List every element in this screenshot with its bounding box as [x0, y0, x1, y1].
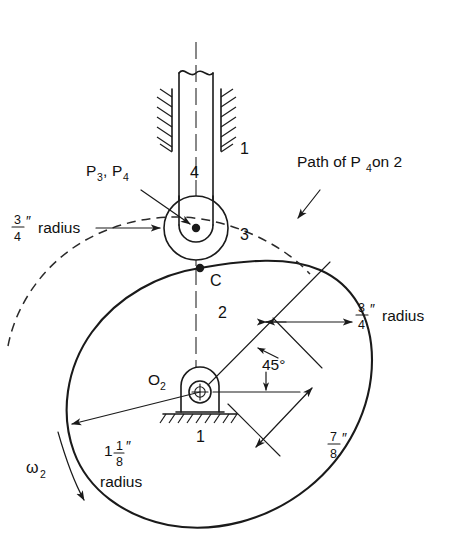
- label-p4-letter: P: [112, 162, 122, 179]
- roller-radius-unit: ″: [26, 213, 31, 229]
- cam-radius-right-denominator: 4: [358, 318, 365, 332]
- label-frame-upper: 1: [240, 140, 249, 157]
- label-coincident-points: P 3 , P 4: [86, 162, 129, 183]
- dim-label-roller-radius: 3 4 ″ radius: [12, 213, 80, 244]
- figure-canvas: 1 4 3 C 2 1 O 2 P 3 , P 4 Path of P 4 on…: [0, 0, 458, 542]
- label-path-text-2: on 2: [372, 153, 402, 170]
- leader-path-of-p4: [298, 190, 320, 218]
- dim-offset: [228, 318, 322, 456]
- dim-label-cam-radius-left: 1 1 8 ″ radius: [100, 438, 142, 490]
- cam-radius-right-suffix: radius: [382, 307, 424, 324]
- cam-radius-right-unit: ″: [370, 301, 375, 317]
- mechanism-diagram: 1 4 3 C 2 1 O 2 P 3 , P 4 Path of P 4 on…: [0, 0, 458, 542]
- offset-numerator: 7: [330, 430, 337, 444]
- roller-radius-denominator: 4: [14, 230, 21, 244]
- label-path-text-1: Path of P: [297, 153, 361, 170]
- hatch-right: [221, 89, 236, 152]
- roller-radius-suffix: radius: [38, 219, 80, 236]
- label-points-comma: ,: [103, 162, 107, 179]
- roller-radius-numerator: 3: [14, 213, 21, 227]
- omega-symbol: ω: [26, 459, 39, 476]
- label-contact-point: C: [210, 272, 222, 289]
- label-pivot: O 2: [148, 371, 166, 392]
- ground-hatch: [160, 414, 237, 423]
- label-follower-rod: 4: [190, 164, 199, 181]
- ground-pivot: [160, 367, 237, 423]
- cam-radius-left-unit: ″: [126, 438, 131, 454]
- contact-point-marker: [196, 264, 204, 272]
- label-p4-subscript: 4: [123, 171, 129, 183]
- path-of-p4-curve: [8, 217, 310, 346]
- roller: [164, 196, 228, 260]
- label-cam: 2: [218, 304, 227, 321]
- cam-radius-left-numerator: 1: [116, 439, 123, 453]
- offset-denominator: 8: [330, 447, 337, 461]
- offset-unit: ″: [342, 430, 347, 446]
- label-angle: 45°: [262, 356, 285, 373]
- hatch-left: [157, 89, 172, 152]
- cam-radius-right-numerator: 3: [358, 301, 365, 315]
- label-omega: ω 2: [26, 459, 46, 480]
- cam-radius-left-denominator: 8: [116, 455, 123, 469]
- label-pivot-letter: O: [148, 371, 160, 388]
- label-frame-lower: 1: [196, 428, 205, 445]
- label-roller: 3: [240, 226, 249, 243]
- cam-radius-left-suffix: radius: [100, 473, 142, 490]
- dim-label-cam-radius-right: 3 4 ″ radius: [356, 301, 424, 332]
- label-p3-letter: P: [86, 162, 96, 179]
- label-pivot-subscript: 2: [160, 380, 166, 392]
- omega-subscript: 2: [40, 468, 46, 480]
- label-path-of-p4: Path of P 4 on 2: [297, 153, 402, 174]
- cam-radius-left-whole: 1: [104, 442, 113, 459]
